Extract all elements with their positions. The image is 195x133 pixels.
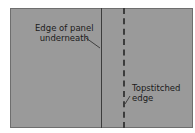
label-line: edge [132, 93, 181, 103]
panel-underneath-label: Edge of panel underneath [35, 23, 94, 43]
label-line: Edge of panel [35, 23, 94, 33]
label-line: underneath [35, 33, 94, 43]
topstitched-edge-label: Topstitched edge [132, 83, 181, 103]
leader-lines [0, 0, 195, 133]
label-line: Topstitched [132, 83, 181, 93]
